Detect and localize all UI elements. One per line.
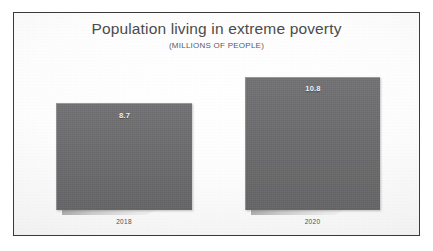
plot-area: 8.7 2018 10.8 2020 (14, 13, 419, 235)
bar-texture-2020 (246, 78, 380, 210)
slide-frame: Population living in extreme poverty (MI… (13, 12, 420, 236)
bar-value-label-2020: 10.8 (246, 84, 380, 93)
bar-2020[interactable]: 10.8 (245, 77, 380, 210)
category-label-2020: 2020 (245, 218, 380, 225)
bar-2018[interactable]: 8.7 (56, 103, 192, 210)
category-label-2018: 2018 (56, 218, 192, 225)
slide-screenshot: Population living in extreme poverty (MI… (0, 0, 433, 251)
bar-value-label-2018: 8.7 (57, 111, 192, 120)
